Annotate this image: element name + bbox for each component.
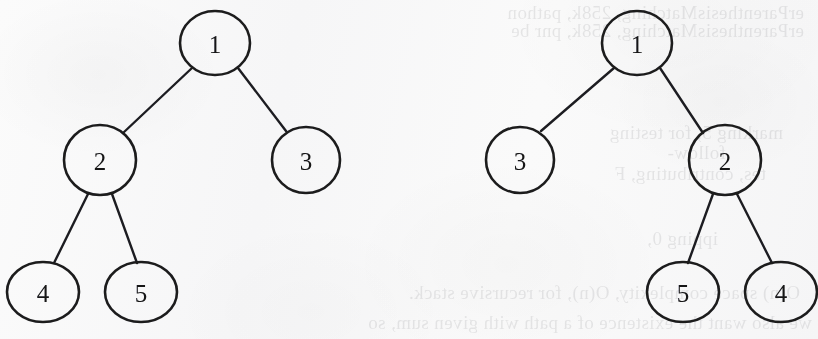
tree-node-L2[interactable]: 2 xyxy=(64,125,136,195)
tree-edge-L2-L5 xyxy=(112,194,137,263)
tree-node-L4[interactable]: 4 xyxy=(7,262,79,322)
left-binary-tree: 12345 xyxy=(7,11,340,322)
scanned-figure-page: erParenthesisMatching, 258k, pathonerPar… xyxy=(0,0,818,339)
tree-edge-L1-L2 xyxy=(123,68,192,133)
tree-edge-R1-R3 xyxy=(541,68,614,131)
trees-ink-layer: 1234513254 xyxy=(7,11,817,322)
tree-edge-R1-R2 xyxy=(660,68,703,133)
node-value-label: 2 xyxy=(719,148,732,175)
node-value-label: 5 xyxy=(677,280,690,307)
tree-edge-R2-R5 xyxy=(688,194,713,263)
tree-edge-L1-L3 xyxy=(238,68,286,131)
node-value-label: 3 xyxy=(514,148,527,175)
tree-node-R1[interactable]: 1 xyxy=(602,11,672,75)
node-value-label: 4 xyxy=(775,280,788,307)
node-value-label: 4 xyxy=(37,280,50,307)
node-value-label: 2 xyxy=(94,148,107,175)
tree-node-L1[interactable]: 1 xyxy=(180,11,250,75)
node-value-label: 1 xyxy=(209,31,222,58)
node-value-label: 1 xyxy=(631,31,644,58)
binary-tree-pair-diagram: 1234513254 xyxy=(0,0,818,339)
tree-node-R2[interactable]: 2 xyxy=(689,125,761,195)
tree-node-L3[interactable]: 3 xyxy=(272,127,340,193)
tree-node-R5[interactable]: 5 xyxy=(647,262,719,322)
tree-node-R3[interactable]: 3 xyxy=(486,127,554,193)
right-binary-tree: 13254 xyxy=(486,11,817,322)
node-value-label: 5 xyxy=(135,280,148,307)
node-value-label: 3 xyxy=(300,148,313,175)
tree-node-L5[interactable]: 5 xyxy=(105,262,177,322)
tree-edge-R2-R4 xyxy=(737,194,772,263)
tree-node-R4[interactable]: 4 xyxy=(745,262,817,322)
tree-edge-L2-L4 xyxy=(54,194,88,263)
